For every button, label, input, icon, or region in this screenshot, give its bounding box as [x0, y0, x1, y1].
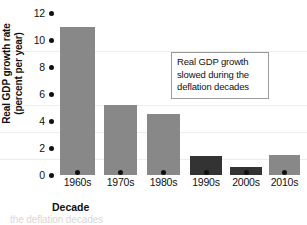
annotation-deflation-note: Real GDP growth slowed during the deflat… [171, 52, 269, 99]
x-tick-dot-icon [244, 170, 249, 175]
annotation-line1: Real GDP growth [177, 56, 263, 69]
y-tick-0: 0 [24, 169, 54, 181]
x-tick-dot-icon [204, 170, 209, 175]
y-tick-dot-icon [49, 173, 54, 178]
y-tick-dot-icon [49, 119, 54, 124]
y-tick-label: 2 [39, 143, 45, 154]
plot-area: 12 10 8 6 4 2 0 [0, 0, 307, 225]
annotation-line2: slowed during the [177, 69, 263, 82]
x-tick-label: 2010s [271, 177, 299, 188]
y-tick-label: 12 [34, 8, 45, 19]
y-tick-8: 8 [24, 61, 54, 73]
y-tick-6: 6 [24, 88, 54, 100]
y-axis-title: Real GDP growth rate (percent per year) [1, 14, 24, 134]
y-tick-dot-icon [49, 92, 54, 97]
x-tick-label: 1990s [192, 177, 220, 188]
y-tick-label: 10 [34, 35, 45, 46]
x-category-2000s: 2000s [230, 178, 262, 198]
x-axis-title: Decade [52, 201, 89, 213]
y-tick-12: 12 [24, 7, 54, 19]
annotation-line3: deflation decades [177, 81, 263, 94]
x-category-2010s: 2010s [269, 178, 300, 198]
y-tick-dot-icon [49, 65, 54, 70]
y-tick-label: 8 [39, 62, 45, 73]
x-category-1960s: 1960s [60, 178, 95, 198]
y-tick-dot-icon [49, 11, 54, 16]
y-tick-10: 10 [24, 34, 54, 46]
bar-1960s[interactable] [60, 27, 95, 176]
x-tick-label: 1980s [150, 177, 178, 188]
y-axis-title-line2: (percent per year) [12, 14, 24, 134]
x-tick-dot-icon [75, 170, 80, 175]
x-tick-dot-icon [161, 170, 166, 175]
x-tick-label: 1960s [64, 177, 92, 188]
y-tick-label: 6 [39, 89, 45, 100]
x-category-1990s: 1990s [190, 178, 222, 198]
figure-caption: the deflation decades [10, 214, 307, 225]
x-category-1980s: 1980s [147, 178, 180, 198]
y-tick-2: 2 [24, 142, 54, 154]
y-tick-dot-icon [49, 38, 54, 43]
bar-1970s[interactable] [104, 105, 137, 175]
y-tick-dot-icon [49, 146, 54, 151]
x-tick-label: 2000s [232, 177, 260, 188]
x-tick-label: 1970s [107, 177, 135, 188]
bar-1980s[interactable] [147, 114, 180, 175]
y-tick-4: 4 [24, 115, 54, 127]
x-category-1970s: 1970s [104, 178, 137, 198]
y-tick-label: 4 [39, 116, 45, 127]
y-axis-title-line1: Real GDP growth rate [1, 23, 12, 124]
x-tick-dot-icon [282, 170, 287, 175]
chart-figure: 12 10 8 6 4 2 0 [0, 0, 307, 225]
x-tick-dot-icon [118, 170, 123, 175]
y-tick-label: 0 [39, 170, 45, 181]
